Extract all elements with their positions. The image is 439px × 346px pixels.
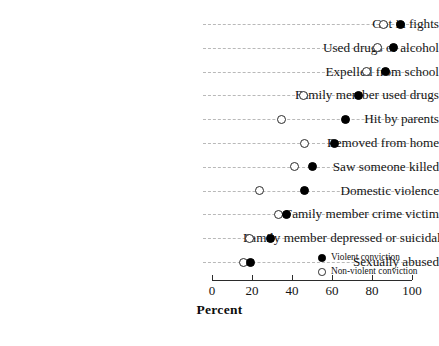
category-row: Family member depressed or suicidal bbox=[0, 226, 439, 250]
x-axis-line bbox=[212, 280, 412, 281]
data-point-non-violent bbox=[362, 67, 371, 76]
x-axis-tick bbox=[292, 275, 293, 280]
category-label: Expelled from school bbox=[243, 60, 439, 84]
x-axis-tick bbox=[252, 275, 253, 280]
legend-label: Violent conviction bbox=[331, 250, 400, 264]
data-point-violent bbox=[396, 20, 405, 29]
filled-circle-icon bbox=[318, 254, 326, 262]
category-label: Got in fights bbox=[243, 12, 439, 36]
category-row: Got in fights bbox=[0, 12, 439, 36]
category-label: Saw someone killed bbox=[243, 155, 439, 179]
data-point-violent bbox=[308, 162, 317, 171]
x-axis-tick-label: 0 bbox=[192, 283, 232, 299]
data-point-non-violent bbox=[379, 20, 388, 29]
x-axis-tick-label: 20 bbox=[232, 283, 272, 299]
data-point-non-violent bbox=[290, 162, 299, 171]
data-point-non-violent bbox=[300, 139, 309, 148]
x-axis-tick-label: 100 bbox=[392, 283, 432, 299]
category-row: Removed from home bbox=[0, 131, 439, 155]
category-label: Domestic violence bbox=[243, 179, 439, 203]
data-point-non-violent bbox=[255, 186, 264, 195]
category-row: Family member used drugs bbox=[0, 83, 439, 107]
data-point-violent bbox=[354, 91, 363, 100]
data-point-non-violent bbox=[245, 234, 254, 243]
category-label: Family member crime victim bbox=[243, 202, 439, 226]
data-point-violent bbox=[389, 43, 398, 52]
data-point-non-violent bbox=[373, 43, 382, 52]
data-point-non-violent bbox=[277, 115, 286, 124]
x-axis-title: Percent bbox=[0, 302, 439, 318]
category-row: Expelled from school bbox=[0, 60, 439, 84]
open-circle-icon bbox=[318, 268, 326, 276]
x-axis-tick-label: 40 bbox=[272, 283, 312, 299]
data-point-violent bbox=[330, 139, 339, 148]
data-point-non-violent bbox=[299, 91, 308, 100]
legend-label: Non-violent conviction bbox=[331, 264, 418, 278]
category-row: Hit by parents bbox=[0, 107, 439, 131]
category-row: Domestic violence bbox=[0, 179, 439, 203]
plot-area: Got in fightsUsed drugs or alcoholExpell… bbox=[0, 0, 439, 346]
data-point-violent bbox=[266, 234, 275, 243]
dot-plot-chart: Got in fightsUsed drugs or alcoholExpell… bbox=[0, 0, 439, 346]
category-row: Family member crime victim bbox=[0, 202, 439, 226]
data-point-violent bbox=[246, 258, 255, 267]
category-label: Removed from home bbox=[243, 131, 439, 155]
x-axis-tick-label: 80 bbox=[352, 283, 392, 299]
category-row: Saw someone killed bbox=[0, 155, 439, 179]
data-point-violent bbox=[300, 186, 309, 195]
x-axis-tick bbox=[212, 275, 213, 280]
data-point-violent bbox=[381, 67, 390, 76]
data-point-violent bbox=[341, 115, 350, 124]
data-point-violent bbox=[282, 210, 291, 219]
category-label: Family member used drugs bbox=[243, 83, 439, 107]
category-label: Used drugs or alcohol bbox=[243, 36, 439, 60]
category-row: Used drugs or alcohol bbox=[0, 36, 439, 60]
x-axis-tick-label: 60 bbox=[312, 283, 352, 299]
